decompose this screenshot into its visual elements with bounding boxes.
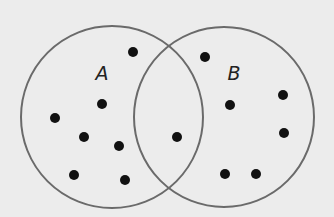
point-a-only — [114, 141, 124, 151]
set-a-circle — [21, 26, 203, 208]
point-b-only — [279, 128, 289, 138]
point-b-only — [220, 169, 230, 179]
set-b-label: B — [227, 62, 240, 84]
point-a-only — [69, 170, 79, 180]
point-b-only — [278, 90, 288, 100]
point-a-and-b — [172, 132, 182, 142]
set-a-label: A — [94, 62, 109, 84]
point-a-only — [128, 47, 138, 57]
point-b-only — [200, 52, 210, 62]
point-a-only — [97, 99, 107, 109]
venn-diagram: A B — [0, 0, 334, 217]
point-a-only — [50, 113, 60, 123]
point-b-only — [251, 169, 261, 179]
set-b-circle — [134, 27, 314, 207]
point-a-only — [79, 132, 89, 142]
point-a-only — [120, 175, 130, 185]
point-b-only — [225, 100, 235, 110]
